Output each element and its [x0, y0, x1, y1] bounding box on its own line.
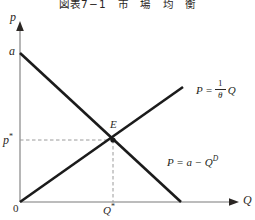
equilibrium-price-label: p* [3, 133, 13, 146]
supply-equation-lhs: P = [196, 84, 213, 96]
supply-fraction-denominator: θ [216, 90, 224, 100]
equilibrium-quantity-symbol: Q [103, 204, 111, 216]
market-equilibrium-figure: 図表7−1 市 場 均 衡 p a p* 0 Q Q* E P = 1 θ Q … [0, 0, 255, 220]
demand-equation-main: P = a − Q [167, 156, 213, 168]
equilibrium-quantity-asterisk: * [111, 202, 115, 211]
equilibrium-point-label: E [110, 119, 117, 130]
demand-equation-label: P = a − QD [167, 154, 218, 168]
supply-fraction-numerator: 1 [216, 79, 225, 89]
y-axis-arrowhead [16, 21, 24, 31]
origin-label: 0 [13, 203, 19, 214]
y-axis-label: p [10, 11, 16, 23]
x-axis-arrowhead [229, 198, 239, 206]
equilibrium-price-asterisk: * [9, 132, 13, 141]
demand-intercept-label: a [9, 45, 15, 57]
equilibrium-point-marker [110, 137, 115, 142]
x-axis-label: Q [243, 194, 252, 206]
demand-equation-superscript: D [213, 154, 218, 163]
supply-curve [20, 87, 183, 202]
supply-demand-plot [0, 0, 255, 220]
demand-curve [20, 53, 181, 202]
supply-equation-fraction: 1 θ [215, 79, 226, 100]
supply-equation-label: P = 1 θ Q [196, 79, 236, 100]
supply-equation-rhs: Q [228, 84, 236, 96]
equilibrium-quantity-label: Q* [103, 203, 115, 216]
